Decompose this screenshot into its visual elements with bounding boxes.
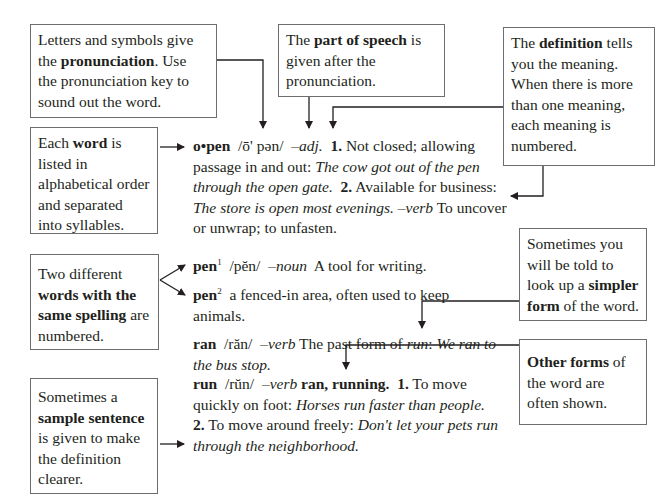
callout-text: Two different (38, 265, 122, 282)
callout-keyword: part of speech (314, 31, 407, 48)
homograph-number: 2 (217, 286, 222, 296)
pronunciation: /răn/ (224, 335, 252, 352)
part-of-speech: –noun (268, 257, 307, 274)
callout-sample-sentence: Sometimes a sample sentence is given to … (30, 378, 158, 494)
callout-other-forms: Other forms of the word are often shown. (519, 339, 647, 425)
arrow-pronunciation (217, 60, 263, 128)
headword: ran (193, 335, 216, 352)
sense-number: 2. (341, 178, 353, 195)
entry-run: run /rŭn/ –verb ran, running. 1. To move… (193, 374, 503, 456)
arrow-definition-1 (333, 107, 503, 128)
callout-simpler-form: Sometimes you will be told to look up a … (519, 228, 647, 321)
callout-text: is given to make the definition clearer. (38, 429, 140, 487)
headword: pen (193, 286, 217, 303)
homograph-number: 1 (217, 257, 222, 267)
callout-keyword: word (73, 134, 107, 151)
callout-text: Each (38, 134, 73, 151)
arrow-pen1 (160, 265, 185, 280)
callout-same-spelling: Two different words with the same spelli… (30, 254, 159, 350)
sense-number: 2. (193, 416, 205, 433)
callout-text: The (511, 34, 539, 51)
definition: The past form of (295, 335, 406, 352)
callout-keyword: definition (539, 34, 603, 51)
example: Horses run faster than people. (296, 396, 485, 413)
arrow-definition-2 (511, 166, 543, 196)
pronunciation: /ō' pən/ (238, 137, 283, 154)
part-of-speech: –verb (260, 335, 295, 352)
definition: To move around freely: (205, 416, 358, 433)
pronunciation: /rŭn/ (225, 375, 254, 392)
callout-keyword: sample sentence (38, 409, 144, 426)
callout-text: Sometimes a (38, 388, 118, 405)
pronunciation: /pĕn/ (229, 257, 260, 274)
entry-pen2: pen2 a fenced-in area, often used to kee… (193, 285, 473, 326)
callout-text: of the word. (560, 297, 639, 314)
entry-open: o•pen /ō' pən/ –adj. 1. Not closed; allo… (193, 136, 513, 239)
sense-number: 1. (397, 375, 409, 392)
callout-text: The (286, 31, 314, 48)
part-of-speech: –verb (262, 375, 297, 392)
definition: a fenced-in area, often used to keep ani… (193, 286, 449, 324)
part-of-speech: –verb (394, 199, 433, 216)
example: The store is open most evenings. (193, 199, 394, 216)
definition: Available for business: (352, 178, 497, 195)
callout-text: tells you the meaning. When there is mor… (511, 34, 633, 154)
callout-keyword: pronunciation (61, 52, 155, 69)
headword: o•pen (193, 137, 230, 154)
part-of-speech: –adj. (291, 137, 322, 154)
callout-keyword: words with the same spelling (38, 286, 136, 324)
other-forms: ran, running. (297, 375, 389, 392)
headword: pen (193, 257, 217, 274)
callout-word: Each word is listed in alphabetical orde… (30, 127, 158, 234)
entry-pen1: pen1 /pĕn/ –noun A tool for writing. (193, 256, 513, 277)
sense-number: 1. (330, 137, 342, 154)
callout-keyword: Other forms (527, 353, 609, 370)
callout-part-of-speech: The part of speech is given after the pr… (278, 24, 445, 97)
callout-pronunciation: Letters and symbols give the pronunciati… (30, 24, 217, 118)
entry-ran: ran /răn/ –verb The past form of run: We… (193, 334, 503, 375)
callout-definition: The definition tells you the meaning. Wh… (503, 27, 655, 166)
arrow-pen2 (160, 280, 185, 295)
headword: run (193, 375, 217, 392)
cross-reference: run (407, 335, 429, 352)
definition: A tool for writing. (314, 257, 427, 274)
